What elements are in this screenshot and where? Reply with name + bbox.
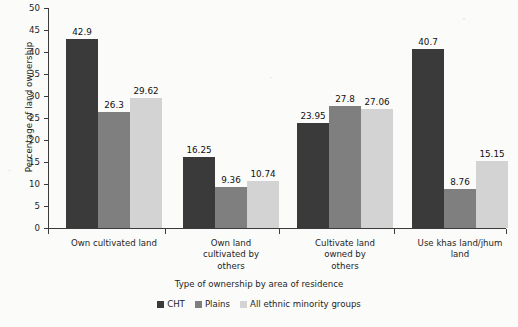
x-axis-line bbox=[48, 228, 506, 229]
bar-chart: Percentage of land ownership 50454035302… bbox=[0, 0, 518, 327]
chart-legend: CHTPlainsAll ethnic minority groups bbox=[0, 299, 518, 309]
legend-swatch-icon bbox=[195, 301, 202, 308]
legend-item[interactable]: All ethnic minority groups bbox=[240, 299, 361, 309]
bar bbox=[329, 106, 361, 228]
category-label-line: Own land bbox=[171, 238, 291, 249]
bar-value-label: 29.62 bbox=[124, 86, 168, 96]
bar-value-label: 16.25 bbox=[177, 145, 221, 155]
category-label-line: cultivated by bbox=[171, 249, 291, 260]
category-label: Cultivate landowned byothers bbox=[285, 238, 405, 272]
x-tick-mark bbox=[165, 229, 166, 234]
bar bbox=[476, 161, 508, 228]
bar-value-label: 8.76 bbox=[438, 177, 482, 187]
category-label: Own landcultivated byothers bbox=[171, 238, 291, 272]
bar bbox=[412, 49, 444, 228]
bar bbox=[215, 187, 247, 228]
bar bbox=[247, 181, 279, 228]
category-label: Own cultivated land bbox=[54, 238, 174, 249]
category-label-line: owned by bbox=[285, 249, 405, 260]
bar-value-label: 10.74 bbox=[241, 169, 285, 179]
bar bbox=[98, 112, 130, 228]
legend-item[interactable]: Plains bbox=[195, 299, 230, 309]
legend-swatch-icon bbox=[240, 301, 247, 308]
bar bbox=[183, 157, 215, 229]
legend-label: Plains bbox=[205, 299, 230, 309]
x-tick-mark bbox=[279, 229, 280, 234]
category-label-line: Cultivate land bbox=[285, 238, 405, 249]
bar bbox=[297, 123, 329, 228]
legend-item[interactable]: CHT bbox=[157, 299, 185, 309]
category-label-line: Use khas land/jhum bbox=[400, 238, 518, 249]
legend-swatch-icon bbox=[157, 301, 164, 308]
x-tick-mark bbox=[394, 229, 395, 234]
x-tick-mark bbox=[48, 229, 49, 234]
bar bbox=[130, 98, 162, 228]
x-tick-mark bbox=[506, 229, 507, 234]
bar-value-label: 27.06 bbox=[355, 97, 399, 107]
category-label: Use khas land/jhumland bbox=[400, 238, 518, 261]
x-axis-title: Type of ownership by area of residence bbox=[0, 279, 518, 289]
category-label-line: others bbox=[285, 261, 405, 272]
bar bbox=[361, 109, 393, 228]
category-label-line: Own cultivated land bbox=[54, 238, 174, 249]
category-label-line: others bbox=[171, 261, 291, 272]
legend-label: CHT bbox=[167, 299, 185, 309]
bar bbox=[66, 39, 98, 228]
bar bbox=[444, 189, 476, 228]
bar-value-label: 26.3 bbox=[92, 100, 136, 110]
bar-value-label: 42.9 bbox=[60, 27, 104, 37]
legend-label: All ethnic minority groups bbox=[250, 299, 361, 309]
bar-value-label: 23.95 bbox=[291, 111, 335, 121]
bar-value-label: 40.7 bbox=[406, 37, 450, 47]
category-label-line: land bbox=[400, 249, 518, 260]
bar-value-label: 15.15 bbox=[470, 149, 514, 159]
